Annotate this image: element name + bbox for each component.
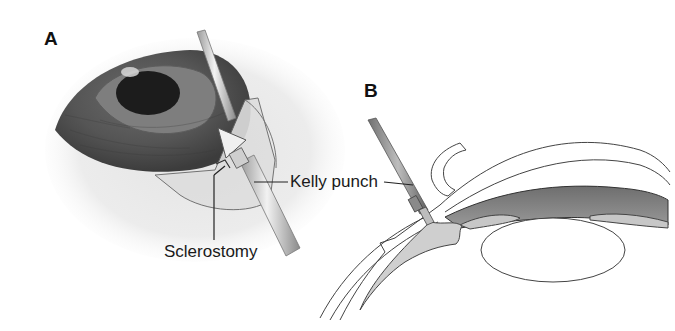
panel-label-a: A	[44, 28, 58, 50]
panel-b-cross-section	[320, 142, 670, 320]
callout-kelly-punch: Kelly punch	[290, 172, 378, 192]
panel-a-eye-illustration	[45, 30, 345, 262]
illustration-canvas	[0, 0, 675, 331]
panel-label-b: B	[364, 80, 378, 102]
callout-sclerostomy: Sclerostomy	[164, 242, 258, 262]
kelly-punch-instrument-b	[368, 118, 434, 225]
surgical-figure: A B Sclerostomy Kelly punch	[0, 0, 675, 331]
